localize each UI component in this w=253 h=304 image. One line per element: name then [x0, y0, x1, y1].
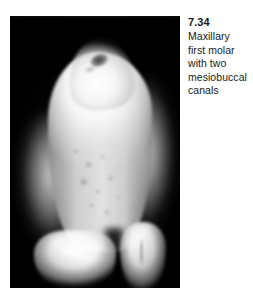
caption-line-5: canals: [188, 84, 252, 98]
figure-caption-text: Maxillary first molar with two mesiobucc…: [188, 30, 252, 98]
canal-orifice-icon: [88, 51, 110, 70]
specimen-ambient-glow: [10, 46, 180, 288]
figure-page: 7.34 Maxillary first molar with two mesi…: [0, 0, 253, 304]
specimen-photograph: [10, 16, 180, 288]
figure-number: 7.34: [188, 15, 252, 29]
caption-line-3: with two: [188, 57, 252, 71]
caption-line-2: first molar: [188, 44, 252, 58]
specimen-lower-right-cusp: [120, 222, 166, 288]
specimen-lower-left-cusp: [34, 230, 116, 288]
specimen-dentin-texture: [62, 136, 140, 232]
specimen-root-apex: [63, 34, 138, 114]
specimen-tooth-trunk: [48, 52, 152, 252]
specimen-fissure-line: [140, 238, 143, 266]
specimen-right-root-lobe: [122, 74, 180, 246]
plate-top-edge-glow: [10, 16, 180, 19]
secondary-canal-orifice-icon: [83, 64, 97, 74]
specimen-furcation-notch: [102, 228, 126, 286]
plate-vignette: [10, 16, 180, 288]
caption-line-4: mesiobuccal: [188, 71, 252, 85]
specimen-left-root-lobe: [12, 112, 76, 262]
figure-caption: 7.34 Maxillary first molar with two mesi…: [188, 15, 252, 98]
caption-line-1: Maxillary: [188, 30, 252, 44]
